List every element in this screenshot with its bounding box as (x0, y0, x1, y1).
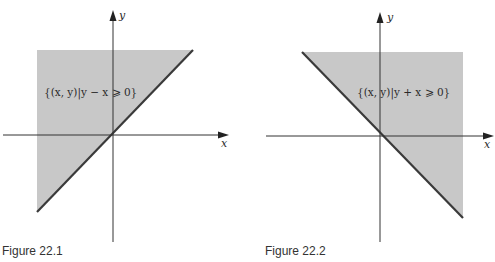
y-axis-arrow-icon (377, 12, 384, 23)
y-axis-arrow-icon (110, 10, 117, 21)
y-axis-label-fig1: y (119, 9, 125, 22)
x-axis-label-fig2: x (484, 138, 490, 151)
x-axis-label-fig1: x (221, 137, 227, 150)
figure-22-1-graph (0, 0, 495, 262)
region-label-fig1: {(x, y)|y − x ⩾ 0} (44, 86, 137, 98)
y-axis-label-fig2: y (387, 11, 393, 24)
region-label-fig2: {(x, y)|y + x ⩾ 0} (357, 86, 450, 98)
caption-fig2: Figure 22.2 (265, 244, 326, 258)
caption-fig1: Figure 22.1 (2, 244, 63, 258)
